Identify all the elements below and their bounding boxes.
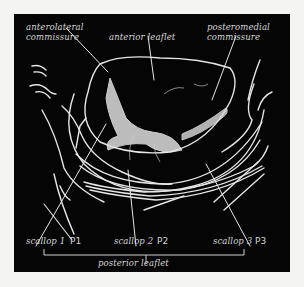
label-p3: P3 [255, 236, 266, 246]
label-posterior-leaflet: posterior leaflet [98, 258, 169, 268]
left-muscle-strokes [32, 66, 46, 77]
label-scallop-3: scallop 3 [213, 236, 252, 246]
pointer-posteromedial [212, 36, 236, 100]
label-anterior-leaflet: anterior leaflet [109, 32, 175, 42]
coaptation-zone [106, 78, 227, 152]
label-anterolateral-commissure: anterolateral commissure [26, 22, 84, 42]
label-scallop-2: scallop 2 [114, 236, 153, 246]
label-p1: P1 [70, 236, 81, 246]
label-p2: P2 [157, 236, 168, 246]
label-scallop-1: scallop 1 [26, 236, 65, 246]
label-posteromedial-commissure: posteromedial commissure [207, 22, 270, 42]
diagram-panel: anterolateral commissure anterior leafle… [14, 14, 290, 272]
valve-illustration [14, 14, 290, 272]
